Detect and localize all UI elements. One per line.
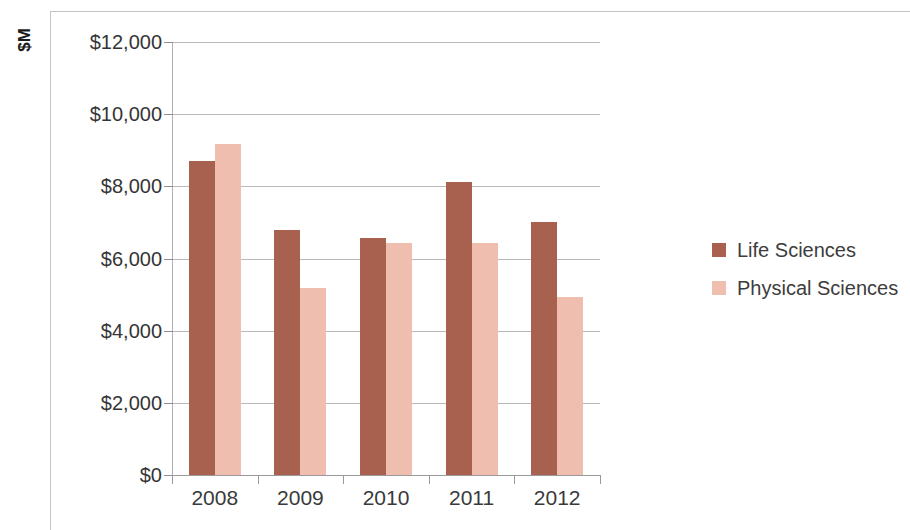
y-axis-tick-label: $6,000 [42, 247, 162, 270]
y-axis-tick-mark [164, 186, 173, 187]
y-axis-tick-label: $8,000 [42, 175, 162, 198]
bar [300, 288, 326, 475]
bar [386, 243, 412, 475]
bar [531, 222, 557, 475]
y-axis-tick-mark [164, 114, 173, 115]
chart-legend: Life SciencesPhysical Sciences [712, 238, 902, 314]
bar [360, 238, 386, 475]
x-axis-tick-mark [172, 475, 173, 484]
legend-item: Life Sciences [712, 238, 902, 262]
bar [446, 182, 472, 475]
bar-group [189, 42, 241, 475]
x-axis-tick-mark [343, 475, 344, 484]
legend-color-swatch [712, 243, 726, 257]
bar-group [531, 42, 583, 475]
x-axis-tick-mark [258, 475, 259, 484]
legend-item-label: Life Sciences [737, 239, 856, 262]
y-axis-tick-label: $2,000 [42, 391, 162, 414]
y-axis-tick-labels: $0$2,000$4,000$6,000$8,000$10,000$12,000 [40, 0, 162, 530]
bar-group [274, 42, 326, 475]
legend-color-swatch [712, 281, 726, 295]
x-axis-tick-mark [514, 475, 515, 484]
x-axis-tick-label: 2011 [429, 486, 515, 510]
y-axis-title-text: $M [15, 28, 35, 52]
plot-area [172, 42, 600, 475]
y-axis-tick-label: $10,000 [42, 103, 162, 126]
bar [472, 243, 498, 475]
bar-group [446, 42, 498, 475]
bar [557, 297, 583, 475]
x-axis-tick-label: 2009 [258, 486, 344, 510]
y-axis-tick-label: $12,000 [42, 31, 162, 54]
bar [189, 161, 215, 475]
y-axis-tick-mark [164, 403, 173, 404]
bar [215, 144, 241, 475]
y-axis-tick-mark [164, 259, 173, 260]
x-axis-tick-label: 2010 [343, 486, 429, 510]
legend-item: Physical Sciences [712, 276, 902, 300]
y-axis-title: $M [8, 18, 42, 62]
x-axis-tick-mark [600, 475, 601, 484]
x-axis-line [172, 475, 600, 476]
bar [274, 230, 300, 475]
bar-group [360, 42, 412, 475]
x-axis-tick-mark [429, 475, 430, 484]
legend-item-label: Physical Sciences [737, 277, 898, 300]
x-axis-tick-label: 2008 [172, 486, 258, 510]
y-axis-tick-mark [164, 42, 173, 43]
y-axis-tick-mark [164, 331, 173, 332]
y-axis-tick-label: $4,000 [42, 319, 162, 342]
x-axis-tick-label: 2012 [514, 486, 600, 510]
chart-screenshot: $M $0$2,000$4,000$6,000$8,000$10,000$12,… [0, 0, 910, 530]
y-axis-tick-label: $0 [42, 464, 162, 487]
